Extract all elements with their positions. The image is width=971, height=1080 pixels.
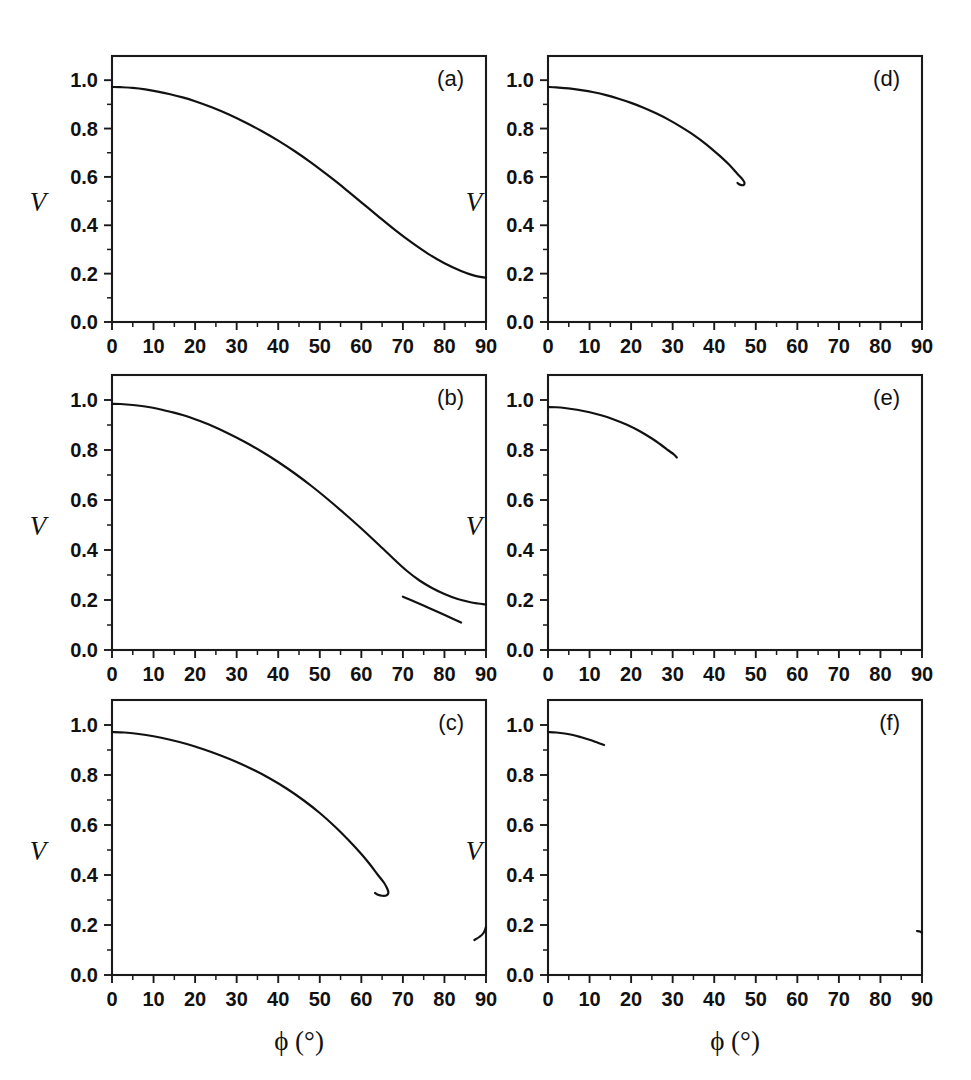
y-tick-label: 0.6 <box>70 489 98 511</box>
x-tick-label: 80 <box>869 663 891 685</box>
x-tick-label: 50 <box>745 988 767 1010</box>
y-tick-label: 1.0 <box>70 69 98 91</box>
x-tick-label: 40 <box>267 335 289 357</box>
x-tick-label: 80 <box>433 988 455 1010</box>
x-tick-label: 20 <box>620 663 642 685</box>
y-axis-title: V <box>30 187 50 217</box>
panel-a: 01020304050607080900.00.20.40.60.81.0V(a… <box>30 56 497 357</box>
panel-label: (a) <box>437 66 464 91</box>
x-tick-label: 20 <box>184 988 206 1010</box>
y-axis-title: V <box>30 836 50 866</box>
x-tick-label: 30 <box>226 335 248 357</box>
x-tick-label: 20 <box>620 335 642 357</box>
x-tick-label: 60 <box>786 663 808 685</box>
plot-frame <box>548 700 922 975</box>
x-tick-label: 0 <box>106 663 117 685</box>
y-tick-label: 0.6 <box>506 814 534 836</box>
y-axis-title: V <box>466 836 486 866</box>
x-tick-label: 90 <box>911 335 933 357</box>
y-tick-label: 0.2 <box>70 263 98 285</box>
curve-f-main-branch <box>548 732 604 745</box>
x-tick-label: 30 <box>662 335 684 357</box>
y-tick-label: 0.6 <box>506 166 534 188</box>
y-tick-label: 0.8 <box>506 118 534 140</box>
y-tick-label: 0.4 <box>506 539 535 561</box>
curve-c-edge-branch <box>474 927 486 940</box>
y-tick-label: 0.4 <box>70 214 99 236</box>
y-tick-label: 0.8 <box>70 439 98 461</box>
x-tick-label: 40 <box>703 663 725 685</box>
y-axis-title: V <box>466 511 486 541</box>
y-tick-label: 0.0 <box>506 639 534 661</box>
x-tick-label: 50 <box>745 335 767 357</box>
curve-b-main-branch <box>112 404 486 605</box>
panel-d: 01020304050607080900.00.20.40.60.81.0V(d… <box>466 56 933 357</box>
x-tick-label: 60 <box>350 335 372 357</box>
x-tick-label: 40 <box>703 988 725 1010</box>
x-tick-label: 70 <box>392 663 414 685</box>
y-tick-label: 0.4 <box>506 864 535 886</box>
plot-frame <box>112 700 486 975</box>
panel-label: (b) <box>437 385 464 410</box>
x-tick-label: 10 <box>578 335 600 357</box>
x-tick-label: 80 <box>869 988 891 1010</box>
y-tick-label: 0.6 <box>506 489 534 511</box>
panel-f: 01020304050607080900.00.20.40.60.81.0V(f… <box>466 700 933 1056</box>
x-tick-label: 70 <box>392 335 414 357</box>
y-tick-label: 0.4 <box>70 864 99 886</box>
x-tick-label: 90 <box>475 988 497 1010</box>
x-axis-title: ϕ (°) <box>274 1026 324 1056</box>
x-tick-label: 60 <box>786 988 808 1010</box>
panel-label: (d) <box>873 66 900 91</box>
curve-d-main-branch <box>548 87 745 185</box>
x-tick-label: 0 <box>542 988 553 1010</box>
y-tick-label: 0.6 <box>70 814 98 836</box>
curve-a-main-branch <box>112 87 486 278</box>
x-tick-label: 30 <box>662 988 684 1010</box>
y-tick-label: 0.8 <box>506 764 534 786</box>
x-tick-label: 80 <box>433 335 455 357</box>
y-tick-label: 1.0 <box>506 69 534 91</box>
x-tick-label: 50 <box>745 663 767 685</box>
y-tick-label: 0.0 <box>506 311 534 333</box>
x-tick-label: 0 <box>542 335 553 357</box>
x-tick-label: 10 <box>142 335 164 357</box>
y-tick-label: 1.0 <box>506 389 534 411</box>
x-tick-label: 0 <box>106 988 117 1010</box>
x-tick-label: 40 <box>267 988 289 1010</box>
y-tick-label: 0.0 <box>70 639 98 661</box>
x-tick-label: 10 <box>578 988 600 1010</box>
figure-container: 01020304050607080900.00.20.40.60.81.0V(a… <box>0 0 971 1080</box>
y-tick-label: 0.8 <box>70 764 98 786</box>
x-tick-label: 30 <box>226 988 248 1010</box>
panel-b: 01020304050607080900.00.20.40.60.81.0V(b… <box>30 375 497 685</box>
plot-frame <box>112 56 486 322</box>
y-tick-label: 0.8 <box>506 439 534 461</box>
panel-c: 01020304050607080900.00.20.40.60.81.0V(c… <box>30 700 497 1056</box>
x-tick-label: 20 <box>184 663 206 685</box>
x-tick-label: 80 <box>433 663 455 685</box>
x-tick-label: 70 <box>828 335 850 357</box>
x-tick-label: 60 <box>786 335 808 357</box>
x-tick-label: 60 <box>350 988 372 1010</box>
x-tick-label: 0 <box>106 335 117 357</box>
x-tick-label: 80 <box>869 335 891 357</box>
y-tick-label: 0.0 <box>506 964 534 986</box>
x-tick-label: 60 <box>350 663 372 685</box>
x-tick-label: 90 <box>911 988 933 1010</box>
multi-panel-chart: 01020304050607080900.00.20.40.60.81.0V(a… <box>0 0 971 1080</box>
x-axis-title: ϕ (°) <box>710 1026 760 1056</box>
x-tick-label: 20 <box>620 988 642 1010</box>
curve-e-main-branch <box>548 407 677 458</box>
y-tick-label: 1.0 <box>506 714 534 736</box>
plot-frame <box>548 56 922 322</box>
x-tick-label: 70 <box>828 988 850 1010</box>
panel-label: (f) <box>879 710 900 735</box>
curve-f-edge-branch <box>917 931 922 933</box>
y-tick-label: 0.2 <box>506 914 534 936</box>
y-tick-label: 1.0 <box>70 389 98 411</box>
y-tick-label: 0.8 <box>70 118 98 140</box>
panel-label: (c) <box>438 710 464 735</box>
panel-e: 01020304050607080900.00.20.40.60.81.0V(e… <box>466 375 933 685</box>
curve-c-main-branch <box>112 732 388 896</box>
